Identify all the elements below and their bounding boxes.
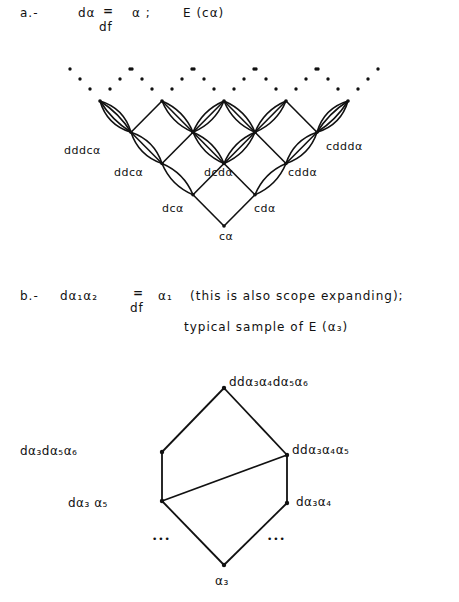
edge-top-right — [224, 388, 287, 455]
node-label-right-lower: dα₃α₄ — [296, 495, 332, 509]
node-label-bottom: α₃ — [215, 574, 229, 588]
node-right-lower — [285, 501, 289, 505]
ellipsis-left: ••• — [152, 534, 171, 544]
lattice-diagram-b — [0, 0, 459, 602]
node-label-right-upper: ddα₃α₄α₅ — [292, 443, 349, 457]
edge-diagonal — [162, 455, 287, 501]
ellipsis-right: ••• — [267, 534, 286, 544]
node-label-left-upper: dα₃dα₅α₆ — [20, 444, 77, 458]
node-top — [222, 386, 226, 390]
edge-top-left — [162, 388, 224, 452]
node-label-top: ddα₃α₄dα₅α₆ — [229, 375, 308, 389]
edge-bottom-left — [162, 501, 224, 565]
node-left-upper — [160, 450, 164, 454]
node-right-upper — [285, 453, 289, 457]
node-left-lower — [160, 499, 164, 503]
node-bottom — [222, 563, 226, 567]
node-label-left-lower: dα₃ α₅ — [68, 496, 108, 510]
